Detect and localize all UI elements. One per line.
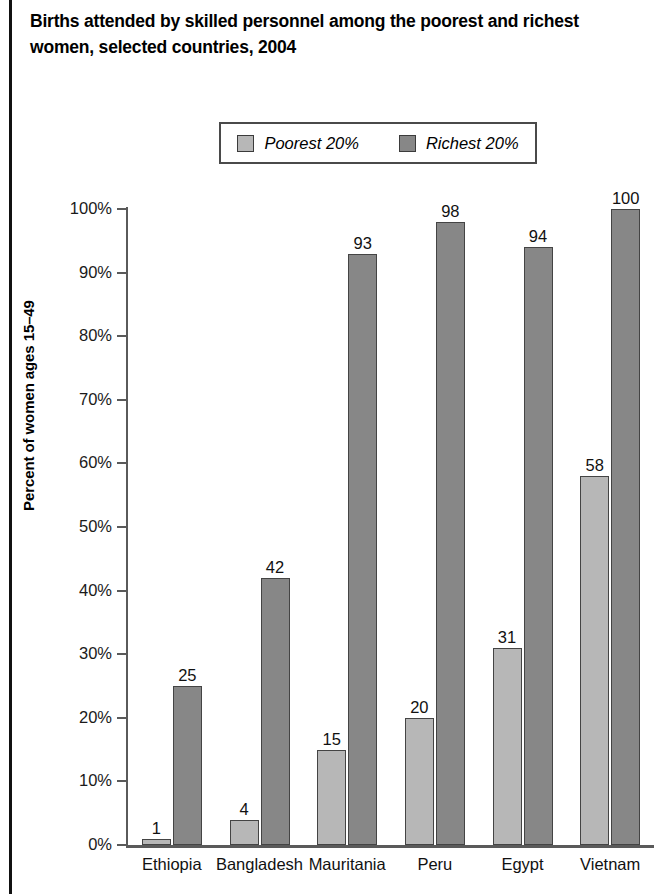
bar-peru-poorest: 20 — [405, 718, 434, 845]
bar-egypt-poorest: 31 — [493, 648, 522, 845]
bar-value-label: 4 — [239, 800, 248, 818]
bar-peru-richest: 98 — [436, 222, 465, 845]
bar-ethiopia-richest: 25 — [173, 686, 202, 845]
y-tick-label: 70% — [48, 391, 112, 407]
bar-value-label: 1 — [152, 819, 161, 837]
bar-bangladesh-richest: 42 — [261, 578, 290, 845]
bar-vietnam-poorest: 58 — [580, 476, 609, 845]
bar-bangladesh-poorest: 4 — [230, 820, 259, 845]
bar-value-label: 31 — [498, 628, 516, 646]
bar-value-label: 15 — [322, 730, 340, 748]
x-axis-label-ethiopia: Ethiopia — [128, 855, 216, 873]
y-tick-label: 30% — [48, 645, 112, 661]
bar-value-label: 94 — [529, 227, 547, 245]
bar-vietnam-richest: 100 — [611, 209, 640, 845]
bar-value-label: 42 — [266, 558, 284, 576]
y-tick-label: 90% — [48, 264, 112, 280]
bar-value-label: 25 — [178, 666, 196, 684]
legend-label-poorest: Poorest 20% — [264, 134, 358, 153]
y-tick-label: 40% — [48, 582, 112, 598]
legend-swatch-poorest-icon — [237, 135, 254, 152]
bar-mauritania-poorest: 15 — [317, 750, 346, 845]
y-tick-label: 20% — [48, 709, 112, 725]
y-tick-label: 50% — [48, 518, 112, 534]
bar-value-label: 93 — [353, 234, 371, 252]
bar-mauritania-richest: 93 — [348, 254, 377, 845]
bar-ethiopia-poorest: 1 — [142, 839, 171, 845]
bar-value-label: 98 — [441, 202, 459, 220]
bar-value-label: 100 — [612, 189, 640, 207]
legend-item-richest: Richest 20% — [399, 134, 519, 153]
x-axis-label-bangladesh: Bangladesh — [216, 855, 304, 873]
plot-area: 12544215932098319458100 — [128, 209, 654, 845]
y-tick-label: 0% — [48, 836, 112, 852]
legend-label-richest: Richest 20% — [426, 134, 519, 153]
y-tick-label: 10% — [48, 772, 112, 788]
bar-egypt-richest: 94 — [524, 247, 553, 845]
y-tick-label: 60% — [48, 454, 112, 470]
x-axis-label-mauritania: Mauritania — [303, 855, 391, 873]
x-axis-label-peru: Peru — [391, 855, 479, 873]
bar-value-label: 58 — [585, 456, 603, 474]
y-axis-ticks: 100%90%80%70%60%50%40%30%20%10%0% — [0, 0, 130, 894]
x-axis-label-egypt: Egypt — [479, 855, 567, 873]
legend-swatch-richest-icon — [399, 135, 416, 152]
y-tick-label: 100% — [48, 200, 112, 216]
x-axis-line — [126, 845, 654, 848]
chart-legend: Poorest 20% Richest 20% — [219, 122, 537, 164]
legend-item-poorest: Poorest 20% — [237, 134, 358, 153]
x-axis-label-vietnam: Vietnam — [566, 855, 654, 873]
bar-value-label: 20 — [410, 698, 428, 716]
y-tick-label: 80% — [48, 327, 112, 343]
